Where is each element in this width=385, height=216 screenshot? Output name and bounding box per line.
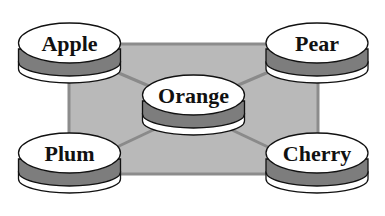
node-label-cherry: Cherry: [283, 141, 351, 166]
node-label-orange: Orange: [158, 83, 229, 108]
diagram-canvas: Apple Pear Orange: [0, 0, 385, 216]
node-cherry: Cherry: [266, 133, 368, 193]
node-plum: Plum: [19, 133, 121, 193]
node-label-apple: Apple: [41, 31, 97, 56]
node-label-plum: Plum: [44, 141, 94, 166]
node-label-pear: Pear: [295, 31, 339, 56]
node-apple: Apple: [19, 23, 121, 83]
diagram-svg: Apple Pear Orange: [0, 0, 385, 216]
node-pear: Pear: [266, 23, 368, 83]
node-orange-center: Orange: [143, 75, 245, 135]
